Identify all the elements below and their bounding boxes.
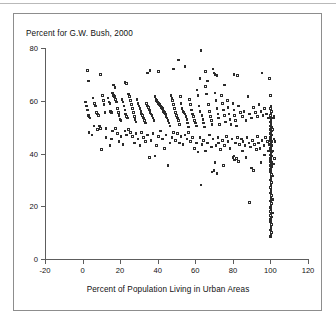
y-tick-mark	[41, 206, 45, 207]
y-tick-mark	[41, 48, 45, 49]
plot-axes: -20020406080100120 020406080	[0, 0, 336, 324]
y-tick-label: 80	[22, 44, 38, 53]
figure-page: Percent for G.W. Bush, 2000 -20020406080…	[0, 0, 336, 324]
x-tick-label: 100	[264, 266, 277, 275]
x-tick-mark	[120, 260, 121, 264]
x-tick-label: 80	[229, 266, 237, 275]
y-tick-mark	[41, 154, 45, 155]
x-tick-label: 120	[302, 266, 315, 275]
x-axis-title: Percent of Population Living in Urban Ar…	[0, 285, 336, 294]
x-tick-label: 0	[80, 266, 84, 275]
y-tick-mark	[41, 101, 45, 102]
y-axis-line	[45, 48, 46, 260]
x-tick-mark	[233, 260, 234, 264]
x-tick-label: -20	[40, 266, 51, 275]
y-tick-label: 40	[22, 149, 38, 158]
x-tick-mark	[158, 260, 159, 264]
x-tick-mark	[45, 260, 46, 264]
x-tick-label: 40	[153, 266, 161, 275]
x-tick-label: 20	[116, 266, 124, 275]
x-tick-mark	[270, 260, 271, 264]
y-tick-label: 60	[22, 96, 38, 105]
x-tick-mark	[308, 260, 309, 264]
y-tick-mark	[41, 259, 45, 260]
x-tick-mark	[195, 260, 196, 264]
x-tick-mark	[83, 260, 84, 264]
x-axis-line	[45, 259, 309, 260]
y-tick-label: 20	[22, 202, 38, 211]
x-tick-label: 60	[191, 266, 199, 275]
y-tick-label: 0	[22, 255, 38, 264]
